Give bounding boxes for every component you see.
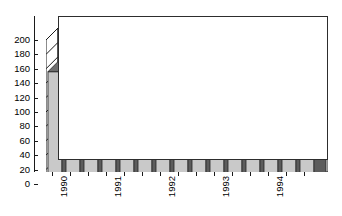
x-axis-group-label: 1993 (221, 176, 231, 197)
x-axis-tick (232, 172, 233, 176)
x-axis-tick (214, 172, 215, 176)
x-axis-tick (304, 172, 305, 176)
y-axis-tick (34, 184, 38, 185)
y-axis-tick-label: 60 (19, 136, 30, 146)
x-axis-tick (52, 172, 53, 176)
y-axis-tick-label: 140 (14, 78, 30, 88)
x-axis-tick (124, 172, 125, 176)
x-axis-tick (268, 172, 269, 176)
y-axis-tick (34, 170, 38, 171)
x-axis-tick (70, 172, 71, 176)
x-axis-group-label: 1991 (113, 176, 123, 197)
y-axis-tick (34, 155, 38, 156)
y-axis-tick (34, 54, 38, 55)
x-axis-group-label: 1992 (167, 176, 177, 197)
y-axis-tick (34, 83, 38, 84)
y-axis-tick-label: 40 (19, 150, 30, 160)
plot-area (46, 16, 328, 172)
bars-container (46, 16, 328, 172)
x-axis-group-label: 1990 (59, 176, 69, 197)
y-axis-tick-label: 20 (19, 165, 30, 175)
x-axis-tick (106, 172, 107, 176)
x-axis-tick (250, 172, 251, 176)
y-axis-tick-label: 120 (14, 93, 30, 103)
y-axis-tick-label: 180 (14, 50, 30, 60)
x-axis-tick (178, 172, 179, 176)
x-axis-labels: 19901991199219931994 (46, 176, 328, 216)
y-axis-tick-label: 200 (14, 35, 30, 45)
y-axis-tick (34, 126, 38, 127)
x-axis-tick (286, 172, 287, 176)
x-axis-group-label: 1994 (275, 176, 285, 197)
x-axis-tick (196, 172, 197, 176)
x-axis-tick (160, 172, 161, 176)
y-axis-tick-label: 100 (14, 107, 30, 117)
y-axis-tick (34, 141, 38, 142)
y-axis-tick (34, 112, 38, 113)
y-axis-tick-label: 160 (14, 64, 30, 74)
y-axis-tick-label: 80 (19, 122, 30, 132)
x-axis-tick (142, 172, 143, 176)
y-axis-tick-label: 0 (25, 179, 30, 189)
bar-chart: 020406080100120140160180200 199019911992… (0, 0, 342, 216)
y-axis-tick (34, 69, 38, 70)
x-axis-tick (88, 172, 89, 176)
y-axis-tick (34, 40, 38, 41)
y-axis-tick (34, 98, 38, 99)
y-axis-labels: 020406080100120140160180200 (0, 0, 34, 172)
